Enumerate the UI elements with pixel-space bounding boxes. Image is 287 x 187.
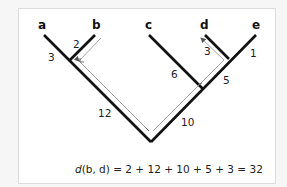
branch-length-b: 2 (73, 38, 80, 50)
branch-c (149, 35, 203, 89)
branch-length-ab: 12 (98, 107, 111, 119)
branch-length-cde: 10 (181, 116, 194, 128)
leaf-label-b: b (92, 18, 101, 32)
distance-formula: d(b, d) = 2 + 12 + 10 + 5 + 3 = 32 (75, 163, 263, 175)
branch-length-d: 3 (204, 45, 211, 57)
leaf-label-e: e (252, 18, 260, 32)
phylogenetic-tree: a b c d e 3 2 12 6 3 1 5 10 d(b, d) = 2 … (0, 0, 287, 187)
branch-length-a: 3 (48, 51, 55, 63)
leaf-label-a: a (38, 18, 46, 32)
tree-branches (44, 35, 256, 142)
path-segment-ab (79, 61, 149, 131)
branch-length-c: 6 (171, 68, 178, 80)
leaf-label-d: d (200, 18, 209, 32)
leaf-label-c: c (145, 18, 152, 32)
formula-text: (b, d) = 2 + 12 + 10 + 5 + 3 = 32 (82, 163, 263, 175)
arrow-head-root (146, 128, 149, 131)
branch-a-to-root (44, 35, 151, 142)
branch-length-e: 1 (250, 47, 257, 59)
branch-length-de: 5 (223, 74, 230, 86)
